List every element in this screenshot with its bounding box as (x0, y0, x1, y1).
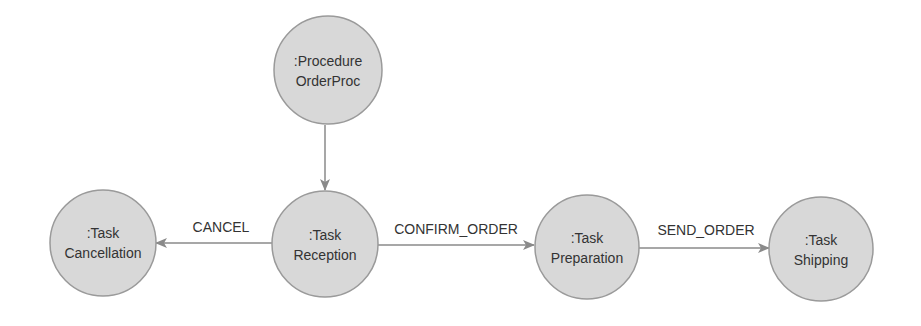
edge-label-send-order: SEND_ORDER (657, 222, 754, 238)
node-task-cancellation: :Task Cancellation (50, 190, 156, 296)
node-type: :Task (309, 227, 343, 243)
node-type: :Task (571, 230, 605, 246)
node-type: :Task (87, 225, 121, 241)
node-name: OrderProc (296, 73, 361, 89)
order-procedure-diagram: CANCEL CONFIRM_ORDER SEND_ORDER :Procedu… (0, 0, 921, 326)
node-name: Reception (293, 247, 356, 263)
node-name: Preparation (551, 250, 623, 266)
node-type: :Procedure (294, 53, 363, 69)
edge-label-cancel: CANCEL (193, 219, 250, 235)
node-task-reception: :Task Reception (272, 191, 378, 297)
edge-send-order: SEND_ORDER (639, 222, 769, 248)
edge-confirm-order: CONFIRM_ORDER (378, 221, 534, 245)
node-circle (50, 190, 156, 296)
node-type: :Task (805, 232, 839, 248)
node-circle (274, 16, 382, 124)
node-task-shipping: :Task Shipping (769, 197, 873, 301)
node-procedure-orderproc: :Procedure OrderProc (274, 16, 382, 124)
node-circle (769, 197, 873, 301)
edge-cancel: CANCEL (156, 219, 272, 243)
node-circle (535, 195, 639, 299)
edge-label-confirm-order: CONFIRM_ORDER (394, 221, 518, 237)
node-name: Shipping (794, 252, 849, 268)
node-circle (272, 191, 378, 297)
node-name: Cancellation (64, 245, 141, 261)
node-task-preparation: :Task Preparation (535, 195, 639, 299)
